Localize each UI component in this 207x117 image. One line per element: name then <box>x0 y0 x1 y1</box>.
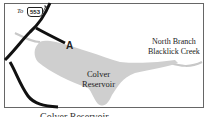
route-shield-icon: 553 <box>27 7 43 17</box>
map-caption: Colver Reservoir <box>40 111 109 117</box>
creek-label-line1: North Branch <box>148 37 200 47</box>
reservoir-label-line2: Reservoir <box>82 79 115 89</box>
map-canvas <box>0 0 207 117</box>
road-direction-label: To <box>17 8 23 15</box>
creek-label-line2: Blacklick Creek <box>148 47 200 57</box>
creek-label: North Branch Blacklick Creek <box>148 37 200 57</box>
point-marker-a: A <box>66 41 73 51</box>
reservoir-label-line1: Colver <box>82 69 115 79</box>
reservoir-label: Colver Reservoir <box>82 69 115 89</box>
